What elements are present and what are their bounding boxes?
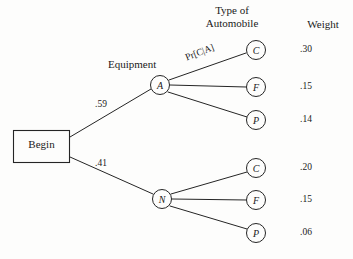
- leaf-n-f-label: F: [252, 195, 260, 206]
- column-header-line-1: Type of: [178, 4, 286, 17]
- leaf-a-p-label: P: [252, 115, 259, 126]
- edge-n-to-p: [170, 206, 247, 229]
- node-n-label: N: [158, 194, 167, 205]
- weight-value-n-f: .15: [300, 194, 340, 204]
- column-header-line-2: Automobile: [178, 17, 286, 30]
- weight-value-a-p: .14: [300, 114, 340, 124]
- column-header-weight: Weight: [294, 18, 352, 31]
- tree-diagram: A N C F P C F P: [0, 0, 353, 259]
- begin-node-label: Begin: [13, 138, 70, 151]
- branch-probability-a: .59: [95, 99, 107, 110]
- node-a-label: A: [156, 80, 164, 91]
- weight-value-n-c: .20: [300, 162, 340, 172]
- weight-value-n-p: .06: [300, 227, 340, 237]
- weight-value-a-c: .30: [300, 44, 340, 54]
- edge-begin-to-a: [70, 89, 151, 137]
- weight-value-a-f: .15: [300, 81, 340, 91]
- edge-begin-to-n: [70, 157, 153, 194]
- branch-probability-n: .41: [95, 158, 107, 169]
- leaf-n-c-label: C: [253, 163, 260, 174]
- edge-n-to-f: [172, 199, 246, 200]
- edge-a-to-c: [169, 53, 246, 80]
- edge-n-to-c: [171, 172, 247, 194]
- figure-canvas: A N C F P C F P Type of Automobile Weigh…: [0, 0, 353, 259]
- leaf-a-f-label: F: [252, 82, 260, 93]
- edge-a-to-f: [170, 85, 246, 87]
- column-header-type-of-automobile: Type of Automobile: [178, 4, 286, 30]
- column-header-equipment: Equipment: [108, 58, 156, 71]
- leaf-a-c-label: C: [253, 45, 260, 56]
- edge-a-to-p: [168, 92, 247, 117]
- leaf-n-p-label: P: [252, 228, 259, 239]
